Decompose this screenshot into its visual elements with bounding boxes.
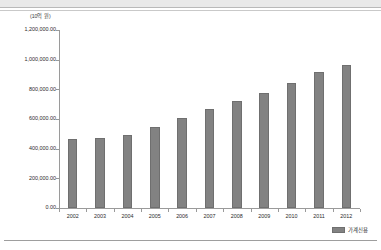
legend-swatch-household-credit: [332, 227, 345, 233]
chart-legend: 가계신용: [332, 226, 368, 234]
x-tick-mark: [141, 209, 142, 212]
x-tick-label-2012: 2012: [333, 213, 360, 219]
bar-2011: [314, 72, 324, 208]
x-axis-line: [59, 208, 360, 209]
y-axis-line: [59, 30, 60, 209]
y-tick-mark: [56, 149, 59, 150]
y-tick-mark: [56, 89, 59, 90]
x-tick-mark: [305, 209, 306, 212]
x-tick-mark: [223, 209, 224, 212]
y-tick-mark: [56, 178, 59, 179]
bar-2002: [68, 139, 78, 208]
bar-2006: [177, 118, 187, 208]
bar-chart: 0.00200,000.00400,000.00600,000.00800,00…: [0, 0, 381, 250]
x-tick-label-2008: 2008: [223, 213, 250, 219]
y-tick-label: 400,000.00: [4, 145, 56, 151]
y-tick-label: 600,000.00: [4, 115, 56, 121]
bar-2003: [95, 138, 105, 208]
y-tick-label: 200,000.00: [4, 175, 56, 181]
x-tick-mark: [196, 209, 197, 212]
bar-2008: [232, 101, 242, 208]
y-tick-label: 1,200,000.00: [4, 26, 56, 32]
legend-label-household-credit: 가계신용: [348, 226, 368, 234]
y-tick-mark: [56, 60, 59, 61]
y-tick-label-wrap: 1,000,000.00: [0, 56, 56, 64]
chart-page: (10억 원) 0.00200,000.00400,000.00600,000.…: [0, 0, 381, 250]
y-tick-label-wrap: 1,200,000.00: [0, 26, 56, 34]
x-tick-label-2010: 2010: [278, 213, 305, 219]
x-tick-mark: [360, 209, 361, 212]
x-tick-mark: [168, 209, 169, 212]
x-tick-label-2002: 2002: [59, 213, 86, 219]
y-tick-label-wrap: 0.00: [0, 204, 56, 212]
x-tick-mark: [114, 209, 115, 212]
y-tick-label: 1,000,000.00: [4, 56, 56, 62]
x-tick-mark: [278, 209, 279, 212]
x-tick-mark: [251, 209, 252, 212]
x-tick-label-2011: 2011: [305, 213, 332, 219]
bar-2012: [342, 65, 352, 208]
y-tick-mark: [56, 30, 59, 31]
x-tick-label-2003: 2003: [86, 213, 113, 219]
bar-2010: [287, 83, 297, 208]
x-tick-mark: [86, 209, 87, 212]
y-tick-label-wrap: 200,000.00: [0, 175, 56, 183]
x-tick-label-2006: 2006: [168, 213, 195, 219]
x-tick-label-2004: 2004: [114, 213, 141, 219]
x-tick-label-2009: 2009: [251, 213, 278, 219]
y-tick-label: 800,000.00: [4, 86, 56, 92]
x-tick-mark: [333, 209, 334, 212]
bar-2009: [259, 93, 269, 208]
y-tick-label-wrap: 600,000.00: [0, 115, 56, 123]
y-tick-label: 0.00: [4, 204, 56, 210]
y-tick-mark: [56, 119, 59, 120]
x-tick-label-2007: 2007: [196, 213, 223, 219]
y-tick-label-wrap: 800,000.00: [0, 86, 56, 94]
bar-2005: [150, 127, 160, 208]
bar-2007: [205, 109, 215, 208]
bottom-divider: [4, 240, 377, 241]
bar-2004: [123, 135, 133, 208]
y-tick-label-wrap: 400,000.00: [0, 145, 56, 153]
x-tick-mark: [59, 209, 60, 212]
x-tick-label-2005: 2005: [141, 213, 168, 219]
